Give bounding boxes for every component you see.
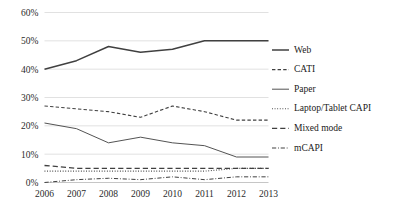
x-axis-tick-label: 2009 xyxy=(131,189,150,199)
series-line-paper xyxy=(45,123,269,157)
series-line-cati xyxy=(45,106,269,120)
y-axis-tick-label: 40% xyxy=(21,65,39,75)
legend-label: CATI xyxy=(294,64,315,74)
y-axis-tick-label: 60% xyxy=(21,8,39,18)
gridlines-group xyxy=(45,13,269,183)
x-axis-labels-group: 20062007200820092010201120122013 xyxy=(35,189,278,199)
legend-label: Paper xyxy=(294,84,316,94)
x-axis-tick-label: 2006 xyxy=(35,189,54,199)
x-axis-tick-label: 2011 xyxy=(195,189,214,199)
series-line-mixed-mode xyxy=(45,166,269,169)
x-axis-tick-label: 2008 xyxy=(99,189,118,199)
y-axis-tick-label: 10% xyxy=(21,150,39,160)
series-group xyxy=(45,41,269,183)
y-axis-tick-label: 50% xyxy=(21,36,39,46)
y-axis-tick-label: 30% xyxy=(21,93,39,103)
y-axis-tick-label: 20% xyxy=(21,121,39,131)
series-line-mcapi xyxy=(45,177,269,183)
chart-canvas: 0%10%20%30%40%50%60% 2006200720082009201… xyxy=(0,0,398,205)
y-axis-labels-group: 0%10%20%30%40%50%60% xyxy=(21,8,39,188)
line-chart: 0%10%20%30%40%50%60% 2006200720082009201… xyxy=(0,0,398,205)
y-axis-tick-label: 0% xyxy=(26,178,39,188)
x-axis-tick-label: 2010 xyxy=(163,189,182,199)
legend-label: Mixed mode xyxy=(294,123,342,133)
legend-label: Web xyxy=(294,45,311,55)
x-axis-tick-label: 2012 xyxy=(227,189,246,199)
x-axis-tick-label: 2013 xyxy=(259,189,278,199)
legend-label: Laptop/Tablet CAPI xyxy=(294,103,371,113)
legend-group: WebCATIPaperLaptop/Tablet CAPIMixed mode… xyxy=(272,45,371,153)
legend-label: mCAPI xyxy=(294,143,323,153)
series-line-web xyxy=(45,41,269,69)
x-axis-tick-label: 2007 xyxy=(67,189,86,199)
